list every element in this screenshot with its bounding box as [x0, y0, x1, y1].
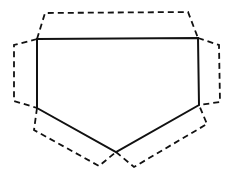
- pentagon-base: [37, 38, 199, 152]
- flap-top: [37, 12, 198, 39]
- flap-right: [198, 38, 220, 105]
- flap-lower-right: [116, 105, 207, 167]
- flap-lower-left: [34, 108, 116, 166]
- flap-left: [14, 39, 37, 108]
- pentagon-net-diagram: [0, 0, 231, 190]
